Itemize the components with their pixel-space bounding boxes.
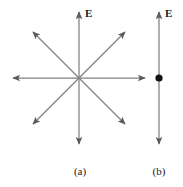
- field-arrow-up-right: [79, 32, 125, 78]
- physics-field-figure: E E (a) (b): [0, 0, 183, 187]
- panel-a-arrow-group: [13, 12, 145, 144]
- charge-point-marker: [155, 74, 162, 81]
- panel-a-field-label: E: [85, 8, 92, 19]
- figure-vector-canvas: [0, 0, 183, 187]
- panel-b-field-label: E: [165, 8, 172, 19]
- field-arrow-down-right: [79, 78, 125, 124]
- panel-b-caption: (b): [142, 166, 176, 177]
- field-arrow-up-left: [33, 32, 79, 78]
- field-arrow-down-left: [33, 78, 79, 124]
- panel-a-caption: (a): [60, 166, 100, 177]
